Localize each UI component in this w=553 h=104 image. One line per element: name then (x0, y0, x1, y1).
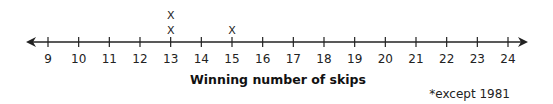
data-point-x: X (167, 24, 175, 37)
tick-label: 17 (286, 52, 301, 66)
x-axis-label: Winning number of skips (190, 72, 366, 87)
tick-label: 12 (132, 52, 147, 66)
tick-label: 23 (470, 52, 485, 66)
tick-label: 24 (500, 52, 515, 66)
dot-plot: 9101112131415161718192021222324 XXX Winn… (0, 0, 553, 104)
tick-label: 15 (224, 52, 239, 66)
annotation-note: *except 1981 (429, 87, 510, 101)
tick-label: 10 (71, 52, 86, 66)
tick-label: 21 (408, 52, 423, 66)
tick-label: 22 (439, 52, 454, 66)
tick-label: 13 (163, 52, 178, 66)
tick-label: 9 (44, 52, 52, 66)
data-point-x: X (167, 9, 175, 22)
tick-label: 19 (347, 52, 362, 66)
tick-label: 16 (255, 52, 270, 66)
data-point-x: X (228, 24, 236, 37)
tick-label: 20 (378, 52, 393, 66)
tick-label: 14 (194, 52, 209, 66)
tick-label: 18 (316, 52, 331, 66)
tick-label: 11 (102, 52, 117, 66)
